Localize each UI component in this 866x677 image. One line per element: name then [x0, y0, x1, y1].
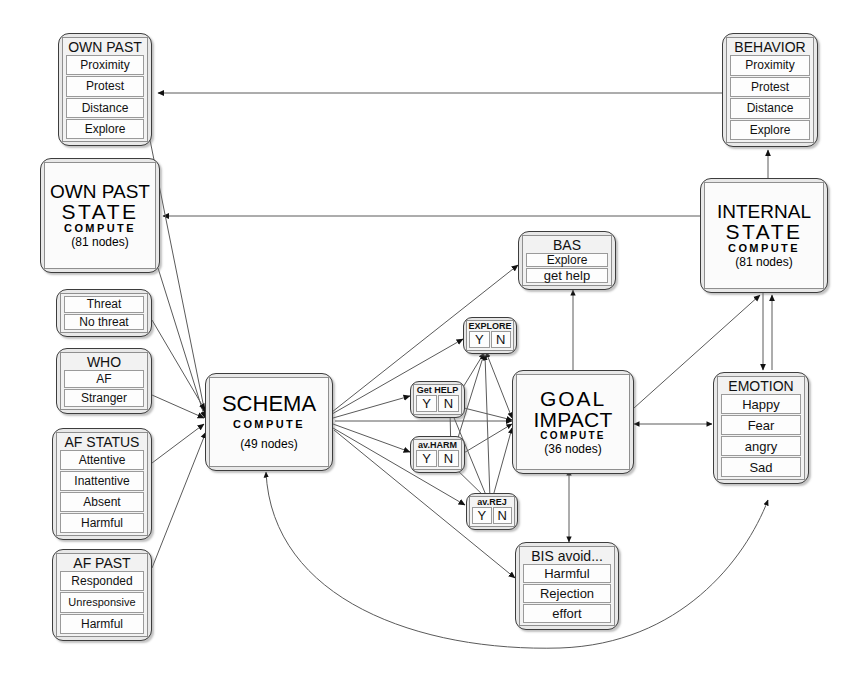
cell-no[interactable]: N	[493, 507, 513, 524]
list-item[interactable]: Distance	[730, 98, 810, 119]
list-item[interactable]: Unresponsive	[60, 592, 144, 612]
node-goal-impact-line1: GOAL	[540, 388, 606, 409]
list-item[interactable]: Happy	[721, 394, 801, 414]
node-internal-state-line2: STATE	[725, 221, 802, 242]
node-bas-title: BAS	[523, 236, 611, 253]
node-own-past[interactable]: OWN PAST Proximity Protest Distance Expl…	[58, 33, 152, 146]
list-item[interactable]: Proximity	[66, 55, 144, 75]
edge-who-to-schema	[152, 395, 204, 418]
list-item[interactable]: Protest	[730, 77, 810, 98]
cell-yes[interactable]: Y	[469, 331, 490, 348]
node-bas[interactable]: BAS Explore get help	[518, 231, 616, 290]
node-av-harm-yn-caption: av.HARM	[414, 440, 461, 450]
node-goal-impact-line4: (36 nodes)	[544, 442, 601, 456]
list-item[interactable]: angry	[721, 436, 801, 456]
list-item[interactable]: Fear	[721, 415, 801, 435]
list-item[interactable]: Harmful	[60, 614, 144, 634]
list-item[interactable]: Explore	[526, 253, 608, 267]
node-who-title: WHO	[61, 353, 147, 370]
edge-goal-impact-av-rej-yn	[492, 428, 512, 500]
node-own-past-state-line2: STATE	[61, 201, 138, 222]
list-item[interactable]: Harmful	[60, 513, 144, 533]
cell-no[interactable]: N	[491, 331, 512, 348]
node-goal-impact-line2: IMPACT	[533, 409, 612, 430]
node-own-past-state-line1: OWN PAST	[50, 182, 150, 201]
node-goal-impact-compute[interactable]: GOAL IMPACT COMPUTE (36 nodes)	[512, 370, 634, 474]
node-emotion[interactable]: EMOTION Happy Fear angry Sad	[713, 372, 809, 484]
node-own-past-title: OWN PAST	[63, 38, 147, 55]
list-item[interactable]: Absent	[60, 492, 144, 512]
node-internal-state-line1: INTERNAL	[717, 202, 811, 221]
node-own-past-state-line3: COMPUTE	[64, 222, 136, 235]
node-explore-yn[interactable]: EXPLORE Y N	[463, 317, 517, 354]
list-item[interactable]: Stranger	[64, 389, 144, 407]
node-behavior[interactable]: BEHAVIOR Proximity Protest Distance Expl…	[722, 33, 818, 147]
node-af-status[interactable]: AF STATUS Attentive Inattentive Absent H…	[52, 428, 152, 540]
list-item[interactable]: No threat	[64, 314, 144, 331]
node-get-help-yn[interactable]: Get HELP Y N	[410, 381, 465, 418]
node-threat[interactable]: Threat No threat	[56, 289, 152, 337]
list-item[interactable]: Rejection	[523, 584, 611, 603]
list-item[interactable]: Harmful	[523, 564, 611, 583]
list-item[interactable]: Threat	[64, 296, 144, 313]
list-item[interactable]: Responded	[60, 571, 144, 591]
node-own-past-state-line4: (81 nodes)	[71, 235, 128, 249]
node-internal-state-compute[interactable]: INTERNAL STATE COMPUTE (81 nodes)	[700, 178, 828, 293]
node-schema-line3: COMPUTE	[233, 418, 305, 431]
node-internal-state-line3: COMPUTE	[728, 242, 800, 255]
node-explore-yn-caption: EXPLORE	[467, 321, 513, 331]
list-item[interactable]: Inattentive	[60, 471, 144, 491]
list-item[interactable]: AF	[64, 370, 144, 388]
node-af-past-title: AF PAST	[57, 554, 147, 571]
node-af-status-title: AF STATUS	[57, 433, 147, 450]
node-get-help-yn-caption: Get HELP	[414, 385, 461, 395]
node-schema-line4: (49 nodes)	[240, 437, 297, 451]
list-item[interactable]: Attentive	[60, 450, 144, 470]
list-item[interactable]: Protest	[66, 76, 144, 96]
node-schema-compute[interactable]: SCHEMA COMPUTE (49 nodes)	[205, 373, 333, 471]
cell-no[interactable]: N	[438, 395, 459, 412]
edge-explore-yn-av-rej-yn	[485, 355, 490, 499]
list-item[interactable]: Explore	[730, 120, 810, 141]
node-internal-state-line4: (81 nodes)	[735, 255, 792, 269]
node-who[interactable]: WHO AF Stranger	[56, 348, 152, 414]
node-av-harm-yn[interactable]: av.HARM Y N	[410, 436, 465, 473]
node-goal-impact-line3: COMPUTE	[540, 430, 605, 442]
node-av-rej-yn-caption: av.REJ	[470, 497, 514, 507]
list-item[interactable]: Sad	[721, 457, 801, 477]
node-behavior-title: BEHAVIOR	[727, 38, 813, 55]
list-item[interactable]: Proximity	[730, 55, 810, 76]
node-bis-avoid-title: BIS avoid...	[520, 547, 614, 564]
edge-af-past-to-schema	[152, 432, 206, 568]
node-av-rej-yn[interactable]: av.REJ Y N	[466, 493, 518, 530]
cell-yes[interactable]: Y	[472, 507, 492, 524]
list-item[interactable]: Distance	[66, 98, 144, 118]
cell-no[interactable]: N	[438, 450, 459, 467]
cell-yes[interactable]: Y	[416, 395, 437, 412]
node-schema-line1: SCHEMA	[222, 393, 316, 415]
node-bis-avoid[interactable]: BIS avoid... Harmful Rejection effort	[515, 542, 619, 630]
list-item[interactable]: effort	[523, 604, 611, 623]
node-emotion-title: EMOTION	[718, 377, 804, 394]
cell-yes[interactable]: Y	[416, 450, 437, 467]
list-item[interactable]: get help	[526, 268, 608, 283]
diagram-canvas: OWN PAST Proximity Protest Distance Expl…	[0, 0, 866, 677]
node-own-past-state-compute[interactable]: OWN PAST STATE COMPUTE (81 nodes)	[40, 158, 160, 273]
list-item[interactable]: Explore	[66, 119, 144, 139]
edge-goal-impact-explore-yn	[486, 352, 512, 418]
node-af-past[interactable]: AF PAST Responded Unresponsive Harmful	[52, 549, 152, 641]
